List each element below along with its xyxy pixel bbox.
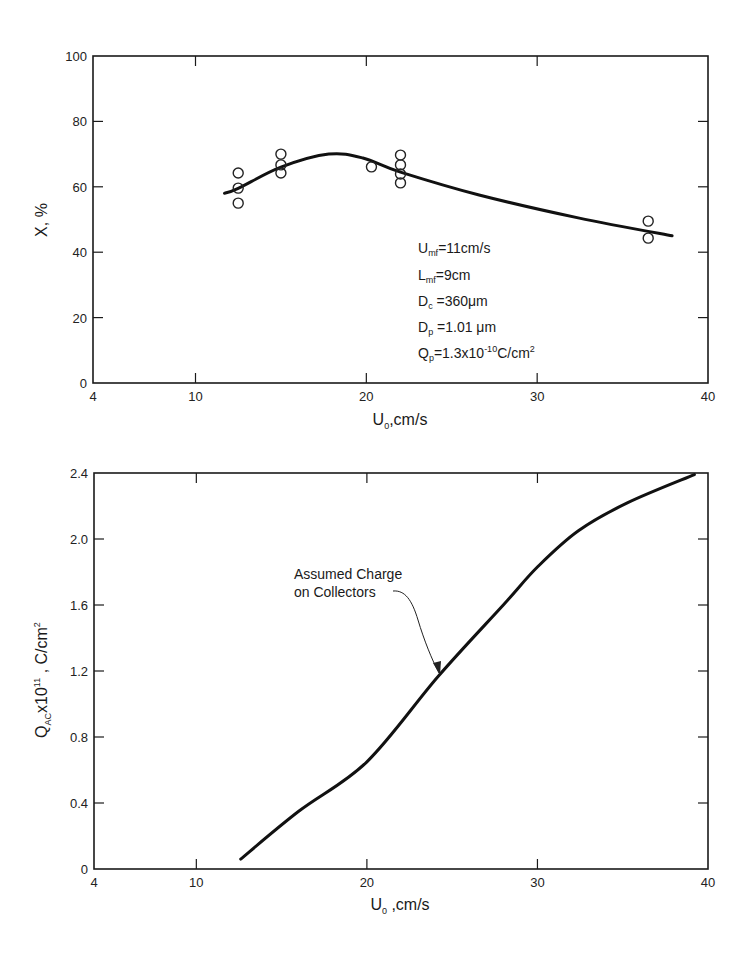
x-tick-label: 4 [90,875,97,890]
y-tick-label: 100 [65,49,87,64]
y-tick-label: 0 [81,862,88,877]
x-tick-label: 10 [189,875,203,890]
param-lmf: Lmf=9cm [418,267,470,285]
x-tick-label: 30 [530,389,544,404]
data-point-circle [396,150,406,160]
x-tick-label: 30 [530,875,544,890]
x-tick-label: 4 [89,389,96,404]
x-tick-label: 40 [701,389,715,404]
bottom-plot-frame [94,473,708,869]
y-tick-label: 0 [80,376,87,391]
data-point-circle [396,178,406,188]
y-tick-label: 40 [73,245,87,260]
data-point-circle [276,168,286,178]
x-tick-label: 40 [701,875,715,890]
param-dc: Dc =360μm [418,293,488,311]
top-x-tick-labels: 410203040 [89,389,715,404]
data-point-circle [643,233,653,243]
param-umf: Umf=11cm/s [418,240,490,258]
bottom-charge-curve [241,475,695,859]
bottom-curve-annotation: Assumed Charge [294,566,402,582]
top-y-axis-title: X, % [33,203,50,237]
arrowhead-icon [433,661,441,675]
top-y-tick-labels: 020406080100 [65,49,87,391]
annotation-arrow [393,591,439,673]
top-fitted-curve [225,154,673,236]
param-qp: Qp=1.3x10-10C/cm2 [418,344,535,363]
top-parameter-annotations: Umf=11cm/s Lmf=9cm Dc =360μm Dp =1.01 μm… [418,240,535,363]
bottom-x-axis-title: U0 ,cm/s [370,896,429,916]
data-point-circle [233,183,243,193]
y-tick-label: 60 [73,180,87,195]
bottom-chart: 00.40.81.21.62.02.4 410203040 Assumed Ch… [32,466,715,916]
param-dp: Dp =1.01 μm [418,319,496,337]
data-point-circle [233,168,243,178]
figure: 020406080100 410203040 X, % U0,cm/s Umf=… [0,0,745,955]
top-ticks [93,56,708,383]
y-tick-label: 2.0 [70,532,88,547]
y-tick-label: 0.4 [70,796,88,811]
data-point-circle [643,216,653,226]
x-tick-label: 20 [359,389,373,404]
y-tick-label: 1.2 [70,664,88,679]
bottom-x-tick-labels: 410203040 [90,875,715,890]
y-tick-label: 20 [73,311,87,326]
y-tick-label: 80 [73,114,87,129]
top-chart: 020406080100 410203040 X, % U0,cm/s Umf=… [33,49,715,431]
top-plot-frame [93,56,708,383]
bottom-ticks [94,473,708,869]
top-x-axis-title: U0,cm/s [373,411,428,431]
y-tick-label: 2.4 [70,466,88,481]
y-tick-label: 1.6 [70,598,88,613]
y-tick-label: 0.8 [70,730,88,745]
x-tick-label: 10 [188,389,202,404]
bottom-y-axis-title: QACx1011 , C/cm2 [32,622,53,738]
data-point-circle [233,198,243,208]
data-point-circle [276,149,286,159]
data-point-circle [366,162,376,172]
bottom-y-tick-labels: 00.40.81.21.62.02.4 [70,466,88,877]
x-tick-label: 20 [360,875,374,890]
bottom-curve-annotation-2: on Collectors [294,584,376,600]
